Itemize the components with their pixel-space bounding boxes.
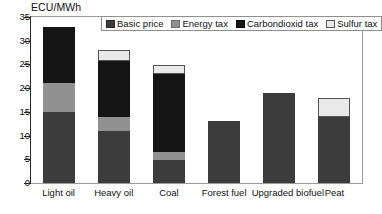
x-axis-tick-label: Heavy oil [86, 188, 141, 198]
legend-label: Sulfur tax [337, 19, 377, 29]
legend-label: Energy tax [182, 19, 227, 29]
bar-segment [98, 117, 130, 131]
y-axis-tick-label: 25 [9, 59, 30, 69]
bar-segment [43, 27, 75, 84]
legend-swatch-carbondioxid-tax-icon [236, 20, 245, 28]
bar-stack [318, 98, 350, 183]
bar-segment [98, 50, 130, 60]
bar-group [263, 17, 295, 183]
y-axis-tick-label: 20 [9, 83, 30, 93]
y-axis-tick-label: 0 [9, 178, 30, 188]
bar-stack [263, 93, 295, 183]
y-axis-tick-label: 5 [9, 154, 30, 164]
bar-segment [318, 98, 350, 117]
bar-stack [153, 65, 185, 183]
bar-segment [153, 65, 185, 74]
bar-segment [43, 83, 75, 111]
bar-group [43, 17, 75, 183]
legend-swatch-basic-price-icon [106, 20, 115, 28]
bar-segment [153, 74, 185, 152]
x-axis-tick-label: Light oil [31, 188, 86, 198]
x-axis-tick-label: Peat [307, 188, 362, 198]
legend-item: Carbondioxid tax [236, 19, 318, 29]
legend-item: Basic price [106, 19, 163, 29]
bar-group [98, 17, 130, 183]
x-axis-tick-label: Coal [141, 188, 196, 198]
bar-segment [98, 131, 130, 183]
y-axis-tick-label: 35 [9, 12, 30, 22]
bar-segment [153, 160, 185, 183]
bar-group [153, 17, 185, 183]
x-axis-tick-label: Upgraded biofuel [252, 188, 307, 198]
bar-segment [43, 112, 75, 183]
legend-label: Basic price [117, 19, 163, 29]
bar-segment [263, 93, 295, 183]
legend-swatch-sulfur-tax-icon [326, 20, 335, 28]
bar-stack [208, 121, 240, 183]
legend-swatch-energy-tax-icon [171, 20, 180, 28]
bar-stack [98, 50, 130, 183]
bar-group [318, 17, 350, 183]
bar-segment [153, 152, 185, 161]
chart-axis-title: ECU/MWh [31, 1, 81, 13]
x-axis-tick-label: Forest fuel [197, 188, 252, 198]
bar-group [208, 17, 240, 183]
legend-item: Sulfur tax [326, 19, 377, 29]
legend-item: Energy tax [171, 19, 227, 29]
bar-segment [318, 117, 350, 183]
bar-stack [43, 27, 75, 184]
bars-area [31, 17, 362, 183]
y-axis: 05101520253035 [0, 0, 30, 214]
y-axis-tick-label: 15 [9, 107, 30, 117]
legend-label: Carbondioxid tax [247, 19, 318, 29]
bar-segment [98, 61, 130, 117]
y-axis-tick-label: 10 [9, 131, 30, 141]
y-axis-tick-label: 30 [9, 36, 30, 46]
chart-legend: Basic price Energy tax Carbondioxid tax … [101, 16, 382, 31]
bar-segment [208, 121, 240, 183]
